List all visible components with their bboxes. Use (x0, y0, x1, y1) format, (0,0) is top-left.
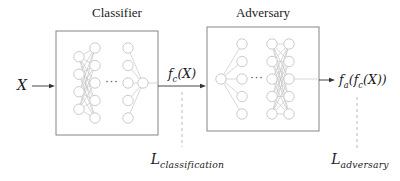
neuron-node (138, 78, 148, 88)
neuron-node (123, 78, 133, 88)
neuron-node (267, 39, 277, 49)
neuron-node (74, 87, 84, 97)
loss-classification-base: L (151, 151, 160, 167)
neuron-node (237, 56, 247, 66)
adversary-network (216, 39, 319, 119)
neuron-node (267, 109, 277, 119)
neuron-node (284, 91, 294, 101)
neuron-node (123, 95, 133, 105)
loss-adversary-base: L (331, 151, 340, 167)
adversary-output-arrow (319, 78, 335, 83)
fa-args: (X)) (363, 72, 387, 87)
neuron-node (267, 56, 277, 66)
neuron-node (90, 43, 100, 53)
arrow-head-icon (49, 84, 55, 89)
neuron-node (74, 69, 84, 79)
neuron-node (284, 74, 294, 84)
input-arrow (32, 84, 55, 89)
neuron-node (123, 43, 133, 53)
neuron-node (284, 56, 294, 66)
classifier-title: Classifier (57, 5, 177, 20)
neuron-node (237, 109, 247, 119)
neuron-node (123, 60, 133, 70)
figure-canvas: Classifier Adversary X fc(X) fa(fc(X)) L… (0, 0, 400, 181)
adversary-loss-label: Ladversary (320, 150, 400, 174)
adversary-title: Adversary (207, 5, 319, 20)
neuron-node (123, 113, 133, 123)
neuron-node (90, 60, 100, 70)
loss-adversary-subscript: adversary (341, 159, 389, 170)
neuron-node (284, 39, 294, 49)
classifier-output-label: fc(X) (158, 66, 206, 87)
neuron-node (74, 104, 84, 114)
neuron-node (90, 95, 100, 105)
neuron-node (90, 78, 100, 88)
input-label: X (10, 77, 34, 93)
neuron-node (237, 74, 247, 84)
classifier-hidden-layers-dots: ··· (103, 77, 121, 89)
neuron-node (267, 74, 277, 84)
neuron-node (216, 74, 226, 84)
arrow-head-icon (329, 78, 335, 83)
neuron-node (237, 91, 247, 101)
neuron-node (90, 113, 100, 123)
neuron-node (74, 52, 84, 62)
adversary-hidden-layers-dots: ··· (248, 73, 266, 85)
fc-args: (X) (177, 66, 196, 81)
loss-classification-subscript: classification (160, 159, 224, 170)
neuron-node (237, 39, 247, 49)
neuron-node (267, 91, 277, 101)
neuron-node (284, 109, 294, 119)
adversary-output-label: fa(fc(X)) (339, 72, 387, 93)
classification-loss-label: Lclassification (140, 150, 235, 174)
fa-mid: (f (349, 72, 359, 87)
